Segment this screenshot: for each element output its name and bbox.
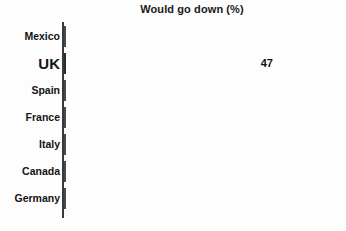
bar-track: 34 [64, 161, 219, 182]
bar-value-label: 22 [147, 188, 159, 209]
bar-row[interactable]: Spain38 [0, 77, 346, 104]
bar-rect[interactable] [64, 53, 66, 74]
bar-track: 38 [64, 80, 237, 101]
plot-area: Mexico60UK47Spain38France37Italy36Canada… [0, 22, 346, 222]
bar-row[interactable]: Mexico60 [0, 23, 346, 50]
bar-category-label: Italy [0, 131, 60, 158]
bar-rect[interactable] [64, 134, 66, 155]
bar-row[interactable]: Germany22 [0, 185, 346, 212]
bar-track: 60 [64, 26, 337, 47]
bar-value-label: 47 [261, 53, 273, 74]
bar-value-label: 34 [202, 161, 214, 182]
bar-rect[interactable] [64, 188, 66, 209]
bar-chart: Would go down (%) Mexico60UK47Spain38Fra… [0, 0, 346, 231]
bar-row[interactable]: Italy36 [0, 131, 346, 158]
bar-rect[interactable] [64, 80, 66, 101]
bar-value-label: 60 [320, 26, 332, 47]
bar-category-label: UK [0, 50, 60, 77]
bar-row[interactable]: Canada34 [0, 158, 346, 185]
bar-category-label: Mexico [0, 23, 60, 50]
bar-rect[interactable] [64, 107, 66, 128]
bar-rect[interactable] [64, 26, 66, 47]
bar-track: 22 [64, 188, 164, 209]
bar-rect[interactable] [64, 161, 66, 182]
bar-track: 47 [64, 53, 278, 74]
bar-category-label: France [0, 104, 60, 131]
bar-category-label: Germany [0, 185, 60, 212]
chart-title: Would go down (%) [62, 3, 322, 15]
bar-value-label: 37 [215, 107, 227, 128]
bar-row[interactable]: France37 [0, 104, 346, 131]
bar-value-label: 36 [211, 134, 223, 155]
bar-value-label: 38 [220, 80, 232, 101]
bar-track: 36 [64, 134, 228, 155]
bar-row[interactable]: UK47 [0, 50, 346, 77]
bar-track: 37 [64, 107, 232, 128]
bar-category-label: Spain [0, 77, 60, 104]
bar-category-label: Canada [0, 158, 60, 185]
